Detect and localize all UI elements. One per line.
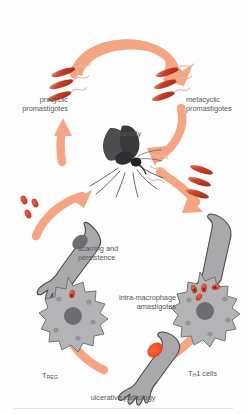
- label-ulcerative-pathology: ulcerative pathology: [60, 394, 186, 403]
- label-treg: TREG: [42, 372, 58, 381]
- macrophage-right: [171, 272, 240, 347]
- label-treg-sub: REG: [46, 374, 57, 380]
- label-procyclic-line2: promastigotes: [22, 104, 68, 113]
- label-th1-tail: 1 cells: [196, 369, 217, 378]
- arrow-scarring-to-procyclic: [54, 118, 72, 162]
- footer-divider: [14, 408, 233, 409]
- leishmania-life-cycle-diagram: procyclic promastigotes metacyclic proma…: [0, 0, 247, 414]
- arrow-metacyclic-to-sandfly: [147, 108, 182, 166]
- arrow-amastigotes-to-sandfly: [36, 190, 92, 236]
- label-metacyclic-line2: promastigotes: [186, 104, 232, 113]
- label-th1-sub: H: [192, 372, 196, 378]
- label-scarring-and-persistence: scarring and persistence: [78, 245, 142, 262]
- label-procyclic-promastigotes: procyclic promastigotes: [2, 96, 68, 113]
- free-amastigotes: [19, 195, 39, 220]
- label-intra-macrophage-amastigotes: intra-macrophage amastigotes: [104, 294, 176, 311]
- diagram-canvas: [0, 0, 247, 414]
- label-scarring-line2: persistence: [78, 253, 115, 262]
- label-sandfly: sandfly: [118, 130, 141, 139]
- label-macrophage-line2: amastigotes: [137, 302, 176, 311]
- label-metacyclic-promastigotes: metacyclic promastigotes: [186, 96, 247, 113]
- label-th1-cells: TH1 cells: [188, 370, 217, 379]
